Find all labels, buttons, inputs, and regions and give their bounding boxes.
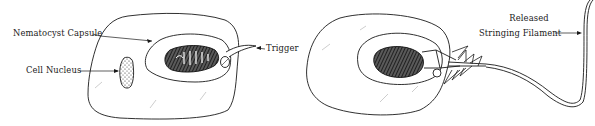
operculum bbox=[433, 69, 441, 77]
discharged-capsule-contents bbox=[374, 47, 424, 78]
trigger-cnidocil bbox=[226, 45, 256, 57]
label-released: Released bbox=[499, 14, 559, 22]
resting-cell bbox=[88, 13, 256, 119]
everted-tube-base bbox=[422, 50, 460, 68]
nematocyst-diagram: Nematocyst Capsule Cell Nucleus Trigger … bbox=[0, 0, 595, 126]
cell-nucleus bbox=[120, 57, 134, 88]
label-nematocyst-capsule: Nematocyst Capsule bbox=[13, 29, 102, 37]
cell-membrane bbox=[88, 13, 239, 119]
label-stinging-filament: Stringing Filament bbox=[479, 29, 561, 37]
label-cell-nucleus: Cell Nucleus bbox=[26, 66, 81, 74]
label-trigger: Trigger bbox=[266, 44, 299, 52]
coiled-thread bbox=[165, 46, 219, 73]
